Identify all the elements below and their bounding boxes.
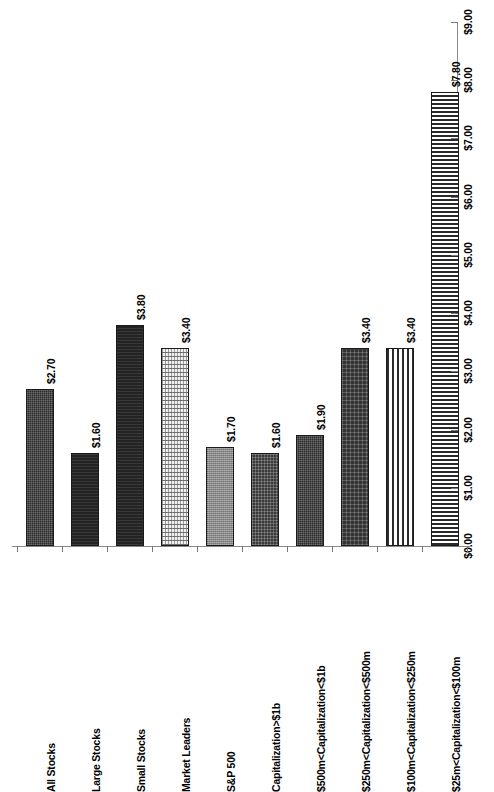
category-tick-1 <box>62 546 63 552</box>
bar-value-label-1: $1.60 <box>90 378 102 448</box>
category-label-1: Large Stocks <box>90 562 102 792</box>
value-tick-label-6: $6.00 <box>462 167 474 227</box>
category-label-4: S&P 500 <box>225 562 237 792</box>
value-tick-label-4: $4.00 <box>462 283 474 343</box>
category-tick-6 <box>287 546 288 552</box>
value-tick-1 <box>451 488 458 489</box>
category-tick-2 <box>107 546 108 552</box>
category-label-0: All Stocks <box>45 562 57 792</box>
value-tick-0 <box>451 546 458 547</box>
bar-value-label-9: $7.80 <box>450 17 462 87</box>
value-tick-label-1: $1.00 <box>462 458 474 518</box>
category-tick-3 <box>152 546 153 552</box>
category-tick-10 <box>467 546 468 552</box>
bar-value-label-2: $3.80 <box>135 250 147 320</box>
category-label-2: Small Stocks <box>135 562 147 792</box>
value-tick-2 <box>451 430 458 431</box>
category-label-7: $250m<Capitalization<$500m <box>360 562 372 792</box>
value-tick-6 <box>451 197 458 198</box>
bar-value-label-4: $1.70 <box>225 372 237 442</box>
category-axis-line <box>12 546 470 547</box>
category-label-5: Capitalization>$1b <box>270 562 282 792</box>
bar-value-label-7: $3.40 <box>360 273 372 343</box>
bar-value-label-0: $2.70 <box>45 314 57 384</box>
category-tick-7 <box>332 546 333 552</box>
bar-8 <box>386 348 414 546</box>
category-label-3: Market Leaders <box>180 562 192 792</box>
value-tick-7 <box>451 138 458 139</box>
bar-7 <box>341 348 369 546</box>
category-label-9: $25m<Capitalization<$100m <box>450 562 462 792</box>
value-tick-9 <box>451 22 458 23</box>
bar-9 <box>431 92 459 546</box>
value-tick-4 <box>451 313 458 314</box>
bar-value-label-8: $3.40 <box>405 273 417 343</box>
bar-4 <box>206 447 234 546</box>
value-tick-label-9: $9.00 <box>462 0 474 52</box>
category-tick-0 <box>17 546 18 552</box>
value-tick-label-7: $7.00 <box>462 108 474 168</box>
bar-2 <box>116 325 144 546</box>
value-tick-3 <box>451 371 458 372</box>
category-label-6: $500m<Capitalization<$1b <box>315 562 327 792</box>
category-tick-8 <box>377 546 378 552</box>
bar-value-label-6: $1.90 <box>315 360 327 430</box>
value-tick-5 <box>451 255 458 256</box>
bar-0 <box>26 389 54 546</box>
value-tick-label-3: $3.00 <box>462 341 474 401</box>
category-label-8: $100m<Capitalization<$250m <box>405 562 417 792</box>
value-tick-label-8: $8.00 <box>462 50 474 110</box>
value-tick-8 <box>451 80 458 81</box>
bar-6 <box>296 435 324 546</box>
value-tick-label-5: $5.00 <box>462 225 474 285</box>
category-tick-4 <box>197 546 198 552</box>
bar-value-label-3: $3.40 <box>180 273 192 343</box>
bar-3 <box>161 348 189 546</box>
category-tick-9 <box>422 546 423 552</box>
value-tick-label-2: $2.00 <box>462 400 474 460</box>
bar-5 <box>251 453 279 546</box>
bar-1 <box>71 453 99 546</box>
category-tick-5 <box>242 546 243 552</box>
bar-value-label-5: $1.60 <box>270 378 282 448</box>
value-tick-label-0: $0.00 <box>462 516 474 576</box>
